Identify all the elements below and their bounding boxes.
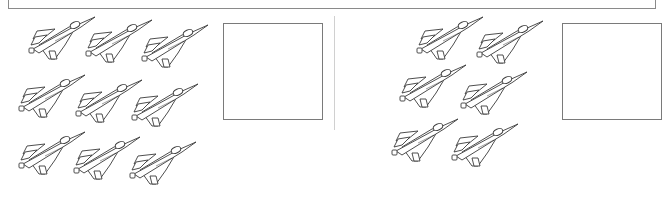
fighter-jet-icon: [448, 122, 520, 168]
fighter-jet-icon: [473, 19, 545, 65]
fighter-jet-icon: [128, 82, 200, 128]
fighter-jet-icon: [126, 140, 198, 186]
panel-divider: [334, 16, 335, 130]
top-frame: [8, 0, 656, 9]
fighter-jet-icon: [457, 70, 529, 116]
left-answer-box[interactable]: [223, 23, 323, 120]
right-answer-box[interactable]: [562, 23, 662, 120]
fighter-jet-icon: [138, 23, 210, 69]
